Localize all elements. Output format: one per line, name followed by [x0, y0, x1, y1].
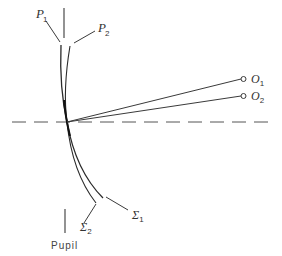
object-point-o1 — [241, 77, 246, 82]
optical-diagram: P1 P2 O1 O2 Σ1 Σ2 Pupil — [0, 0, 282, 256]
label-o2: O2 — [251, 89, 265, 105]
label-pupil: Pupil — [51, 240, 78, 251]
label-p2: P2 — [97, 20, 110, 38]
surface-contact-segment — [64, 100, 70, 136]
sigma1-leader-line — [106, 197, 128, 210]
p1-leader-line — [46, 21, 60, 42]
label-sigma1: Σ1 — [131, 208, 144, 224]
ray-o2 — [67, 96, 241, 122]
label-o1: O1 — [251, 72, 265, 88]
p2-leader-line — [74, 31, 95, 43]
surface-p2-curve — [66, 46, 96, 203]
label-sigma2: Σ2 — [79, 220, 92, 236]
label-p1: P1 — [35, 6, 48, 24]
ray-o1 — [67, 79, 241, 122]
object-point-o2 — [241, 94, 246, 99]
